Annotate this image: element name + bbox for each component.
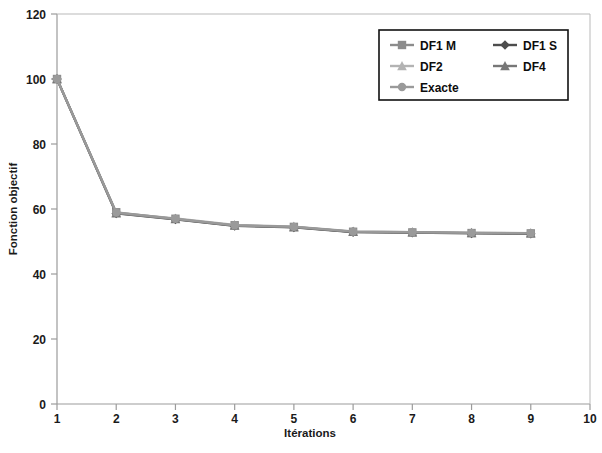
- x-tick-label: 5: [291, 412, 298, 426]
- data-point-marker: [171, 215, 179, 223]
- data-point-marker: [230, 221, 238, 229]
- y-tick-label: 40: [33, 268, 47, 282]
- plot-svg: 020406080100120 12345678910 Itérations F…: [0, 0, 602, 453]
- y-tick-label: 20: [33, 333, 47, 347]
- x-tick-label: 8: [468, 412, 475, 426]
- data-point-marker: [527, 229, 535, 237]
- data-point-marker: [349, 227, 357, 235]
- legend-item-label: DF1 M: [420, 39, 456, 53]
- data-point-marker: [398, 41, 406, 49]
- x-tick-label: 4: [231, 412, 238, 426]
- x-axis: 12345678910: [54, 404, 597, 426]
- data-point-marker: [408, 228, 416, 236]
- y-axis-title: Fonction objectif: [7, 163, 19, 256]
- legend-item-label: DF2: [420, 60, 443, 74]
- data-point-marker: [53, 75, 61, 83]
- x-tick-label: 6: [350, 412, 357, 426]
- legend-item-label: DF4: [523, 60, 546, 74]
- x-tick-label: 9: [527, 412, 534, 426]
- x-tick-label: 3: [172, 412, 179, 426]
- legend-item-label: DF1 S: [523, 39, 557, 53]
- y-tick-label: 100: [26, 73, 46, 87]
- y-axis: 020406080100120: [26, 8, 57, 412]
- data-point-marker: [112, 208, 120, 216]
- data-point-marker: [467, 229, 475, 237]
- x-tick-label: 10: [583, 412, 597, 426]
- legend[interactable]: DF1 MDF1 SDF2DF4Exacte: [379, 30, 568, 100]
- data-point-marker: [290, 223, 298, 231]
- y-tick-label: 80: [33, 138, 47, 152]
- y-tick-label: 60: [33, 203, 47, 217]
- y-tick-label: 120: [26, 8, 46, 22]
- data-point-marker: [398, 83, 406, 91]
- x-tick-label: 1: [54, 412, 61, 426]
- line-chart: 020406080100120 12345678910 Itérations F…: [0, 0, 602, 453]
- x-tick-label: 7: [409, 412, 416, 426]
- legend-item-label: Exacte: [420, 81, 459, 95]
- x-axis-title: Itérations: [284, 427, 336, 439]
- y-tick-label: 0: [39, 398, 46, 412]
- x-tick-label: 2: [113, 412, 120, 426]
